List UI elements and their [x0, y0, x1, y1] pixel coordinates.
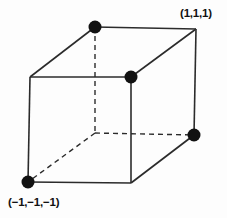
dashed-edge-back-bottom-left-to-back-bottom-right: [95, 133, 194, 135]
cube-geometry-svg: [0, 0, 227, 218]
solid-edge-front-bottom-right-to-back-bottom-right: [131, 135, 194, 183]
vertex-label-min: (−1,−1,−1): [8, 197, 59, 209]
vertex-marker-back-bottom-right: [188, 129, 201, 142]
solid-edge-front-bottom-right-to-front-bottom-left: [28, 182, 131, 183]
cube-diagram: (1,1,1) (−1,−1,−1): [0, 0, 227, 218]
vertex-marker-back-top-left: [89, 21, 102, 34]
solid-edge-back-top-right-to-back-bottom-right: [194, 29, 196, 135]
dashed-edge-back-bottom-left-to-front-bottom-left: [28, 133, 95, 182]
solid-edge-front-top-right-to-back-top-right: [131, 29, 196, 77]
vertex-marker-front-top-right: [125, 71, 138, 84]
solid-edge-back-top-left-to-back-top-right: [95, 27, 196, 29]
solid-edges-group: [28, 27, 196, 183]
solid-edge-front-top-left-to-back-top-left: [30, 27, 95, 77]
solid-edge-front-bottom-left-to-front-top-left: [28, 77, 30, 182]
dashed-edges-group: [28, 27, 194, 182]
vertex-label-max: (1,1,1): [180, 8, 212, 20]
vertex-marker-front-bottom-left: [22, 176, 35, 189]
